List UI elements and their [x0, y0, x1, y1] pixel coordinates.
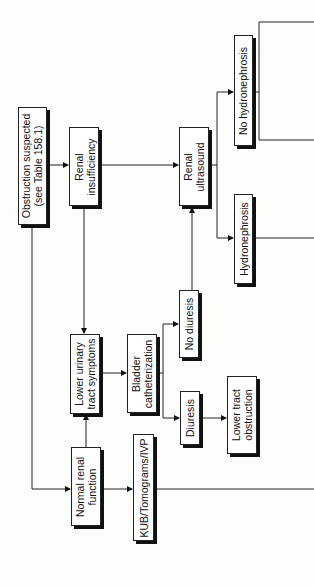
node-bladder-catheterization: Bladdercatheterization: [127, 334, 157, 413]
node-text: Hydronephrosis: [238, 202, 250, 276]
node-text: insufficiency: [84, 138, 96, 195]
node-text: Normal renal: [74, 456, 86, 516]
node-text: KUB/Tomograms/IVP: [138, 438, 150, 537]
node-text: Diuresis: [184, 399, 196, 437]
node-text: tract symptoms: [85, 338, 97, 409]
node-text: catheterization: [142, 339, 154, 407]
node-normal-renal-function: Normal renalfunction: [71, 447, 101, 526]
node-text: Renal: [72, 138, 84, 195]
node-lower-tract-obstruction: Lower tractobstruction: [227, 376, 257, 454]
node-text: Obstruction suspected: [21, 114, 33, 218]
node-text: (see Table 158.1): [33, 114, 45, 218]
node-text: ultrasound: [194, 142, 206, 191]
node-text: No diuresis: [183, 298, 195, 351]
node-lower-urinary-tract-symptoms: Lower urinarytract symptoms: [70, 334, 100, 414]
node-hydronephrosis: Hydronephrosis: [234, 194, 253, 284]
node-text: No hydronephrosis: [238, 46, 250, 134]
node-renal-ultrasound: Renalultrasound: [179, 127, 209, 206]
node-text: Bladder: [130, 339, 142, 407]
node-text: Lower tract: [230, 389, 242, 441]
node-diuresis: Diuresis: [180, 391, 200, 445]
node-no-hydronephrosis: No hydronephrosis: [234, 35, 253, 146]
node-renal-insufficiency: Renalinsufficiency: [69, 127, 99, 206]
node-obstruction-suspected: Obstruction suspected(see Table 158.1): [18, 107, 47, 225]
node-text: Lower urinary: [73, 338, 85, 409]
connector-lines: [0, 0, 314, 586]
node-no-diuresis: No diuresis: [179, 290, 199, 358]
node-kub-tomograms-ivp: KUB/Tomograms/IVP: [133, 434, 154, 541]
node-text: function: [86, 456, 98, 516]
node-text: obstruction: [242, 389, 254, 441]
node-text: Renal: [182, 142, 194, 191]
